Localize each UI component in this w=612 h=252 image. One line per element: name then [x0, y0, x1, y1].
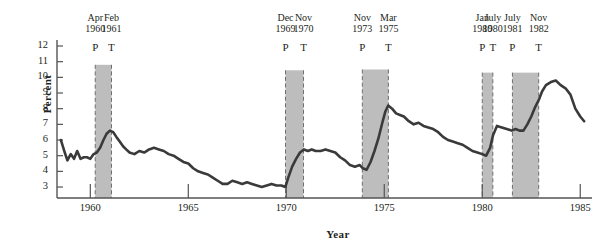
x-axis-title: Year — [278, 228, 398, 240]
recession-trough-date: Nov1970 — [284, 12, 324, 34]
recession-peak-marker: P — [88, 41, 102, 53]
recession-peak-marker: P — [505, 41, 519, 53]
unemployment-recession-chart: Percent Year 3456789101112 1960196519701… — [0, 0, 612, 252]
recession-band — [362, 70, 388, 198]
recession-band — [512, 73, 538, 198]
x-axis-tick-label: 1985 — [558, 202, 602, 213]
y-axis-tick-label: 8 — [32, 102, 48, 113]
x-axis-tick-label: 1960 — [68, 202, 112, 213]
recession-trough-year: 1961 — [91, 23, 131, 34]
data-series-line — [61, 80, 584, 187]
y-axis-tick-label: 9 — [32, 86, 48, 97]
x-axis-tick-label: 1970 — [264, 202, 308, 213]
y-axis-tick-label: 6 — [32, 133, 48, 144]
recession-peak-marker: P — [279, 41, 293, 53]
recession-trough-date: Feb1961 — [91, 12, 131, 34]
y-axis-tick-label: 4 — [32, 164, 48, 175]
data-line-group — [61, 80, 584, 187]
x-axis-tick-label: 1965 — [166, 202, 210, 213]
recession-trough-marker: T — [297, 41, 311, 53]
recession-trough-marker: T — [104, 41, 118, 53]
x-axis-tick-label: 1975 — [362, 202, 406, 213]
y-axis-tick-label: 3 — [32, 180, 48, 191]
recession-trough-marker: T — [532, 41, 546, 53]
recession-peak-marker: P — [355, 41, 369, 53]
recession-trough-year: 1975 — [368, 23, 408, 34]
recession-bands-group — [95, 65, 538, 198]
axes-group — [57, 40, 592, 198]
recession-trough-month: Nov — [284, 12, 324, 23]
recession-trough-date: Mar1975 — [368, 12, 408, 34]
y-axis-tick-label: 11 — [32, 55, 48, 66]
recession-band — [482, 73, 493, 198]
recession-trough-year: 1982 — [519, 23, 559, 34]
recession-trough-month: Mar — [368, 12, 408, 23]
y-axis-tick-label: 12 — [32, 39, 48, 50]
recession-trough-month: Nov — [519, 12, 559, 23]
recession-trough-year: 1970 — [284, 23, 324, 34]
recession-trough-month: Feb — [91, 12, 131, 23]
x-axis-tick-label: 1980 — [460, 202, 504, 213]
y-axis-tick-label: 5 — [32, 149, 48, 160]
recession-trough-date: Nov1982 — [519, 12, 559, 34]
y-axis-tick-label: 7 — [32, 117, 48, 128]
chart-plot-area — [0, 0, 612, 252]
y-axis-tick-label: 10 — [32, 70, 48, 81]
recession-trough-marker: T — [486, 41, 500, 53]
recession-trough-marker: T — [381, 41, 395, 53]
